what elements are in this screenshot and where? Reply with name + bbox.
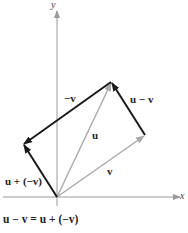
vector-v [57, 136, 144, 197]
equation: u − v = u + (−v) [3, 213, 78, 225]
label-u: u [92, 129, 98, 141]
label-v: v [107, 165, 113, 177]
vector-diagram [0, 0, 188, 233]
label-neg-v: −v [64, 92, 76, 104]
vector-u-minus-v [112, 83, 145, 135]
x-axis-label: x [180, 190, 184, 201]
vector-u-plus-neg-v [24, 145, 57, 197]
y-axis-label: y [51, 0, 55, 10]
label-u-minus-v: u − v [130, 93, 153, 105]
label-u-plus-neg-v: u + (−v) [5, 175, 42, 187]
